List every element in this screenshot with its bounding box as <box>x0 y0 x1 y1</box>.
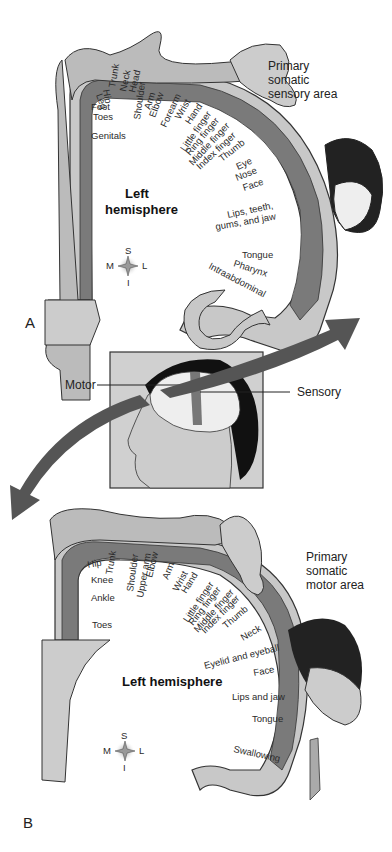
stand-a <box>45 300 100 345</box>
sensory-label: Sensory <box>297 385 341 399</box>
label-ankle: Ankle <box>91 592 115 603</box>
homunculus-diagram: Primary somatic sensory area Left hemisp… <box>0 0 392 852</box>
label-genitals: Genitals <box>91 130 126 141</box>
label-toes: Toes <box>93 111 113 122</box>
hemisphere-label-line-1: Left <box>125 186 150 201</box>
area-title-b: Primary somatic motor area <box>306 550 364 592</box>
panel-letter-a: A <box>25 314 35 331</box>
hemisphere-label-line-2: hemisphere <box>105 202 178 217</box>
label-tongue: Tongue <box>252 713 283 724</box>
compass-a: S I M L <box>106 245 147 288</box>
label-face: Face <box>252 663 275 678</box>
label-toes: Toes <box>92 619 112 630</box>
label-knee: Knee <box>91 574 113 585</box>
compass-m: M <box>106 260 114 271</box>
hemisphere-label: Left hemisphere <box>122 674 222 689</box>
label-hip: Hip <box>86 557 102 570</box>
compass-m: M <box>103 745 111 756</box>
compass-i: I <box>123 762 126 773</box>
stand-b <box>42 640 110 782</box>
label-tongue: Tongue <box>242 249 273 260</box>
panel-letter-b: B <box>23 814 33 831</box>
area-title-line-2: somatic <box>306 564 347 578</box>
area-title-a: Primary somatic sensory area <box>268 59 338 101</box>
panel-a: Primary somatic sensory area Left hemisp… <box>25 32 383 400</box>
compass-s: S <box>121 730 127 741</box>
compass-i: I <box>127 277 130 288</box>
label-lips-jaw: Lips and jaw <box>232 691 285 702</box>
area-title-line-2: somatic <box>268 73 309 87</box>
larynx-b <box>310 738 320 800</box>
area-title-line-3: sensory area <box>268 87 338 101</box>
compass-l: L <box>139 745 144 756</box>
area-title-line-1: Primary <box>306 550 347 564</box>
area-title-line-1: Primary <box>268 59 309 73</box>
panel-b: Primary somatic motor area Left hemisphe… <box>23 509 364 831</box>
compass-l: L <box>142 260 147 271</box>
compass-s: S <box>125 245 131 256</box>
label-neck: Neck <box>239 622 263 642</box>
area-title-line-3: motor area <box>306 578 364 592</box>
motor-label: Motor <box>65 378 96 392</box>
compass-b: S I M L <box>103 730 144 773</box>
